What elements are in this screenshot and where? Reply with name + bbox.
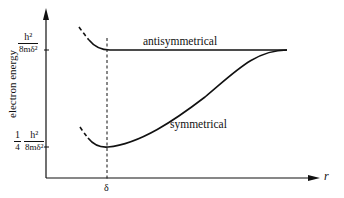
- x-tick-delta-label: δ: [104, 183, 109, 193]
- y-axis-label: electron energy: [7, 50, 18, 118]
- diagram-canvas: [0, 0, 344, 198]
- symmetrical-label: symmetrical: [170, 119, 227, 131]
- antisymmetrical-curve-dashed: [79, 27, 89, 40]
- y-tick-lower-numerator: h²: [29, 130, 39, 141]
- y-axis-arrow-icon: [43, 8, 49, 20]
- antisymmetrical-label: antisymmetrical: [143, 36, 217, 48]
- y-tick-label-lower: h² 8mδ²: [24, 130, 44, 152]
- y-tick-label-upper: h² 8mδ²: [18, 32, 38, 54]
- x-axis-label: r: [324, 170, 329, 182]
- x-axis-arrow-icon: [308, 175, 320, 181]
- y-tick-lower-prefix-denominator: 4: [14, 141, 21, 152]
- y-tick-upper-denominator: 8mδ²: [18, 43, 38, 54]
- y-tick-upper-numerator: h²: [23, 32, 33, 43]
- symmetrical-curve: [88, 50, 287, 147]
- y-tick-label-lower-prefix: 1 4: [14, 130, 21, 152]
- y-tick-lower-denominator: 8mδ²: [24, 141, 44, 152]
- symmetrical-curve-dashed: [80, 127, 88, 138]
- y-tick-lower-prefix-numerator: 1: [14, 130, 21, 141]
